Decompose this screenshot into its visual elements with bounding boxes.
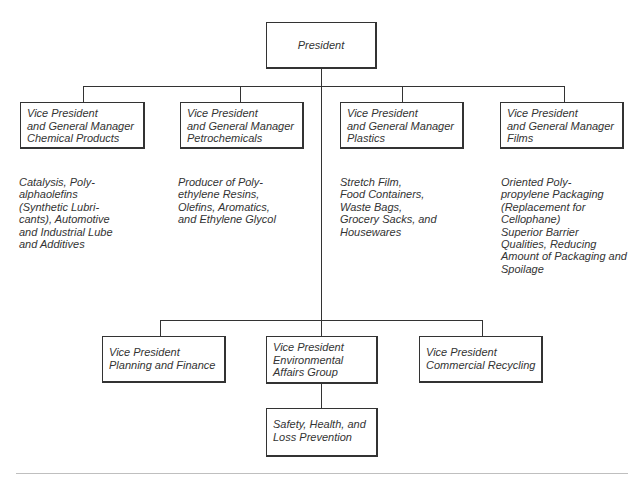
vp-commercial-recycling-box: Vice President Commercial Recycling xyxy=(419,336,543,383)
desc-line: (Replacement for xyxy=(501,201,627,213)
desc-line: Amount of Packaging and xyxy=(501,250,627,262)
desc-line: Qualities, Reducing xyxy=(501,238,627,250)
connector-top-horizontal xyxy=(83,86,565,87)
desc-line: alphaolefins xyxy=(19,188,113,200)
box-line: Petrochemicals xyxy=(187,132,296,145)
connector-bottom-horizontal xyxy=(160,320,483,321)
box-line: Vice President xyxy=(507,107,616,120)
box-line: and General Manager xyxy=(347,120,456,133)
box-line: Commercial Recycling xyxy=(426,359,535,372)
desc-line: Stretch Film, xyxy=(340,176,437,188)
connector-plastics xyxy=(402,86,403,102)
desc-line: Spoilage xyxy=(501,263,627,275)
desc-line: Waste Bags, xyxy=(340,201,437,213)
president-box: President xyxy=(266,22,377,69)
connector-safety xyxy=(321,383,322,408)
box-line: Chemical Products xyxy=(27,132,137,145)
plastics-description: Stretch Film, Food Containers, Waste Bag… xyxy=(340,176,437,238)
box-line: and General Manager xyxy=(507,120,616,133)
connector-recycling xyxy=(482,320,483,336)
desc-line: Oriented Poly- xyxy=(501,176,627,188)
desc-line: and Ethylene Glycol xyxy=(178,213,276,225)
box-line: Vice President xyxy=(273,341,370,354)
desc-line: Cellophane) xyxy=(501,213,627,225)
box-line: Affairs Group xyxy=(273,366,370,379)
box-line: Plastics xyxy=(347,132,456,145)
films-description: Oriented Poly- propylene Packaging (Repl… xyxy=(501,176,627,275)
desc-line: Housewares xyxy=(340,226,437,238)
vp-environmental-affairs-box: Vice President Environmental Affairs Gro… xyxy=(266,336,378,384)
desc-line: Olefins, Aromatics, xyxy=(178,201,276,213)
box-line: Safety, Health, and xyxy=(273,418,370,431)
box-line: Loss Prevention xyxy=(273,431,370,444)
desc-line: Food Containers, xyxy=(340,188,437,200)
box-line: and General Manager xyxy=(187,120,296,133)
connector-petrochemicals xyxy=(240,86,241,102)
desc-line: Catalysis, Poly- xyxy=(19,176,113,188)
box-line: Environmental xyxy=(273,354,370,367)
connector-planning xyxy=(160,320,161,336)
desc-line: ethylene Resins, xyxy=(178,188,276,200)
desc-line: Producer of Poly- xyxy=(178,176,276,188)
petrochemicals-description: Producer of Poly- ethylene Resins, Olefi… xyxy=(178,176,276,226)
desc-line: and Industrial Lube xyxy=(19,226,113,238)
vp-chemical-products-box: Vice President and General Manager Chemi… xyxy=(20,102,145,149)
box-line: and General Manager xyxy=(27,120,137,133)
bottom-divider xyxy=(16,473,628,474)
desc-line: propylene Packaging xyxy=(501,188,627,200)
desc-line: cants), Automotive xyxy=(19,213,113,225)
box-line: Films xyxy=(507,132,616,145)
vp-plastics-box: Vice President and General Manager Plast… xyxy=(340,102,464,149)
vp-films-box: Vice President and General Manager Films xyxy=(500,102,624,149)
vp-petrochemicals-box: Vice President and General Manager Petro… xyxy=(180,102,304,149)
box-line: Vice President xyxy=(426,346,535,359)
desc-line: (Synthetic Lubri- xyxy=(19,201,113,213)
box-line: Vice President xyxy=(27,107,137,120)
box-line: Vice President xyxy=(109,346,218,359)
chemical-products-description: Catalysis, Poly- alphaolefins (Synthetic… xyxy=(19,176,113,250)
connector-president-down xyxy=(321,68,322,336)
desc-line: Superior Barrier xyxy=(501,226,627,238)
box-line: Vice President xyxy=(187,107,296,120)
safety-health-loss-prevention-box: Safety, Health, and Loss Prevention xyxy=(266,408,378,457)
box-line: Vice President xyxy=(347,107,456,120)
desc-line: Grocery Sacks, and xyxy=(340,213,437,225)
president-label: President xyxy=(298,39,344,52)
connector-films xyxy=(564,86,565,102)
connector-chemical xyxy=(83,86,84,102)
desc-line: and Additives xyxy=(19,238,113,250)
box-line: Planning and Finance xyxy=(109,359,218,372)
vp-planning-finance-box: Vice President Planning and Finance xyxy=(102,336,226,383)
